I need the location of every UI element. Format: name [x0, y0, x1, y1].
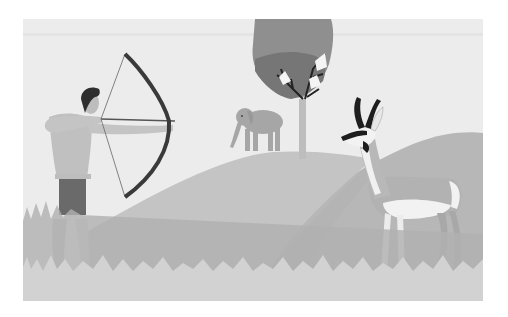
archer-loincloth [59, 177, 86, 215]
illustration-scene [23, 19, 483, 301]
sky-band [23, 33, 483, 36]
tree-trunk [299, 99, 306, 159]
